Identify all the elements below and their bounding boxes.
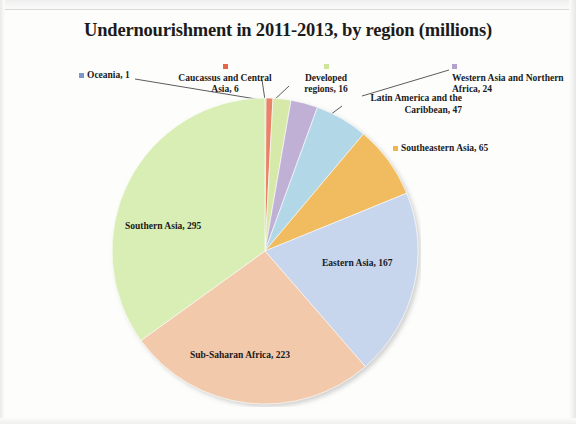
slice-label-latin-america: Latin America and the Caribbean, 47 bbox=[344, 93, 462, 116]
legend-marker-oceania bbox=[79, 73, 84, 78]
legend-marker-developed bbox=[324, 64, 329, 69]
legend-marker-southeastern-asia bbox=[393, 146, 398, 151]
slice-label-southeastern-asia-text: Southeastern Asia, 65 bbox=[401, 143, 488, 155]
slice-label-western-asia-text: Western Asia and Northern Africa, 24 bbox=[452, 73, 568, 96]
chart-title: Undernourishment in 2011-2013, by region… bbox=[0, 20, 576, 41]
slice-label-sub-saharan-africa: Sub-Saharan Africa, 223 bbox=[190, 350, 290, 362]
slice-label-eastern-asia-text: Eastern Asia, 167 bbox=[322, 258, 392, 270]
page-left-edge bbox=[0, 0, 5, 424]
legend-marker-caucassus bbox=[223, 64, 228, 69]
slice-label-oceania: Oceania, 1 bbox=[79, 70, 130, 82]
slice-label-eastern-asia: Eastern Asia, 167 bbox=[322, 258, 392, 270]
slice-label-southern-asia: Southern Asia, 295 bbox=[125, 221, 201, 233]
page-right-edge bbox=[569, 0, 576, 424]
slice-label-caucassus-text: Caucassus and Central Asia, 6 bbox=[170, 73, 280, 96]
slice-label-oceania-text: Oceania, 1 bbox=[87, 70, 130, 82]
slice-label-caucassus: Caucassus and Central Asia, 6 bbox=[170, 61, 280, 96]
slice-label-developed: Developed regions, 16 bbox=[290, 61, 362, 96]
page-top-edge bbox=[0, 0, 576, 9]
slice-label-southern-asia-text: Southern Asia, 295 bbox=[125, 221, 201, 233]
slice-label-southeastern-asia: Southeastern Asia, 65 bbox=[393, 143, 488, 155]
slice-label-western-asia: Western Asia and Northern Africa, 24 bbox=[452, 61, 568, 96]
slice-label-sub-saharan-africa-text: Sub-Saharan Africa, 223 bbox=[190, 350, 290, 362]
page-bottom-edge bbox=[0, 418, 576, 424]
slice-label-latin-america-text: Latin America and the Caribbean, 47 bbox=[344, 93, 462, 116]
legend-marker-western-asia bbox=[452, 64, 457, 69]
page-top-rule bbox=[0, 9, 576, 10]
chart-page: Undernourishment in 2011-2013, by region… bbox=[0, 0, 576, 424]
